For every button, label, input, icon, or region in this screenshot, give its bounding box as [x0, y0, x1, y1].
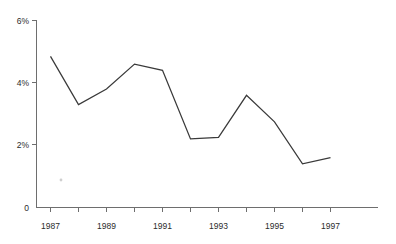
scan-speck [60, 179, 63, 182]
chart-canvas: 6% 4% 2% 0 1987 1989 1991 1993 1995 1 [0, 0, 396, 244]
x-tick-label-1997: 1997 [321, 221, 340, 231]
y-tick-label-0: 0 [24, 203, 29, 213]
y-tick-label-4: 4% [17, 78, 30, 88]
line-chart: 6% 4% 2% 0 1987 1989 1991 1993 1995 1 [0, 0, 396, 244]
x-tick-label-1993: 1993 [209, 221, 228, 231]
y-tick-label-6: 6% [17, 16, 30, 26]
x-tick-label-1989: 1989 [97, 221, 116, 231]
x-tick-label-1995: 1995 [265, 221, 284, 231]
y-tick-label-2: 2% [17, 140, 30, 150]
x-tick-label-1991: 1991 [153, 221, 172, 231]
x-tick-label-1987: 1987 [41, 221, 60, 231]
